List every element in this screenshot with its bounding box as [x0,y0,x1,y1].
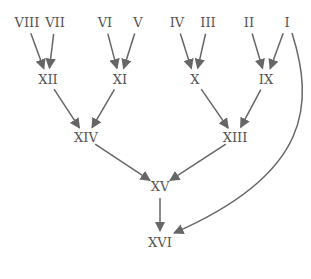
tree-diagram: VIIIVIIVIVIVIIIIIIXIIXIXIXXIVXIIIXVXVI [0,0,311,279]
node-xi: XI [113,72,127,87]
node-xiv: XIV [74,130,98,145]
node-xv: XV [151,179,170,194]
edge-viii-to-xii [31,33,44,68]
node-ii: II [244,15,254,30]
edge-i-to-ix [270,33,283,68]
node-xiii: XIII [223,130,248,145]
edge-xiv-to-xv [95,144,150,180]
node-xii: XII [38,72,58,87]
edge-vii-to-xii [49,34,53,68]
node-vii: VII [44,15,65,30]
node-vi: VI [97,15,113,30]
node-viii: VIII [14,15,40,30]
edge-iii-to-x [198,34,206,69]
edge-x-to-xiii [201,89,228,128]
node-i: I [284,15,289,30]
edge-xii-to-xiv [54,89,79,128]
edge-ix-to-xiii [241,90,261,128]
edge-v-to-xi [124,33,135,68]
node-v: V [132,15,143,30]
diagram-canvas: VIIIVIIVIVIVIIIIIIXIIXIXIXXIVXIIIXVXVI [0,0,311,279]
node-xvi: XVI [148,235,172,250]
edge-xi-to-xiv [92,89,114,127]
edge-xiii-to-xv [170,144,226,180]
node-ix: IX [259,72,274,87]
node-iv: IV [170,15,185,30]
node-x: X [190,72,200,87]
edge-vi-to-xi [108,34,117,69]
edge-iv-to-x [180,33,191,68]
edge-ii-to-ix [252,34,262,69]
node-iii: III [200,15,215,30]
